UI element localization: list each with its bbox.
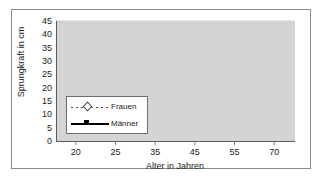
solid-line-icon xyxy=(71,123,109,125)
legend-label-frauen: Frauen xyxy=(111,102,136,111)
y-tick-label: 5 xyxy=(20,124,52,132)
legend-label-maenner: Männer xyxy=(111,119,138,128)
legend: Frauen Männer xyxy=(66,96,148,134)
square-marker-icon xyxy=(84,120,89,125)
x-axis-title: Alter in Jahren xyxy=(56,161,294,171)
legend-item-frauen: Frauen xyxy=(67,99,147,115)
legend-item-maenner: Männer xyxy=(67,116,147,132)
x-tick-label: 35 xyxy=(135,147,175,157)
x-tick-label: 45 xyxy=(175,147,215,157)
diamond-marker-icon xyxy=(83,102,93,112)
x-tick-label: 55 xyxy=(215,147,255,157)
x-tick-label: 20 xyxy=(56,147,96,157)
x-tick-label: 25 xyxy=(96,147,136,157)
y-tick-label: 0 xyxy=(20,137,52,145)
x-tick-label: 70 xyxy=(254,147,294,157)
y-axis-title: Sprungkraft in cm xyxy=(16,7,26,117)
